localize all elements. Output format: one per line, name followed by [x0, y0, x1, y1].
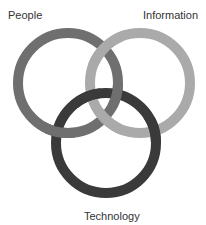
information-label: Information	[143, 9, 198, 21]
rings-diagram	[0, 0, 206, 225]
people-label: People	[8, 9, 42, 21]
technology-label: Technology	[84, 210, 140, 222]
